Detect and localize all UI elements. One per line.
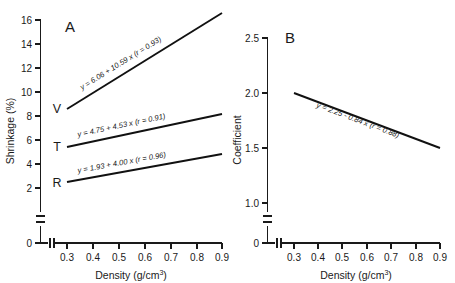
- x-ticklabel-0.8: 0.8: [409, 252, 423, 263]
- panel-b-plot: 2.5 2.0 1.5 1.0 0 Coefficient 0.3 0.4 0.…: [228, 0, 455, 283]
- x-ticklabel-0.4: 0.4: [86, 252, 100, 263]
- x-axis-title: Density (g/cm3): [320, 269, 392, 281]
- series-label-v: V: [53, 102, 62, 116]
- x-ticklabel-0.5: 0.5: [112, 252, 126, 263]
- x-ticklabel-0.3: 0.3: [287, 252, 301, 263]
- panel-a-plot: 16 14 12 10 8 6 4 2 0 Shrinkage (%): [0, 0, 230, 283]
- series-label-r: R: [52, 176, 61, 190]
- y-axis-title: Coefficient: [231, 115, 243, 165]
- x-ticklabel-0.6: 0.6: [360, 252, 374, 263]
- panel-letter-a: A: [65, 18, 75, 35]
- series-line-v: [67, 13, 222, 109]
- y-ticklabel-10: 10: [21, 87, 33, 98]
- panel-a: 16 14 12 10 8 6 4 2 0 Shrinkage (%): [0, 0, 230, 283]
- x-ticklabel-0.7: 0.7: [384, 252, 398, 263]
- x-ticklabel-0.8: 0.8: [190, 252, 204, 263]
- y-ticklabel-2.5: 2.5: [245, 33, 259, 44]
- y-ticklabel-8: 8: [26, 111, 32, 122]
- y-ticklabel-14: 14: [21, 39, 33, 50]
- x-axis-title-tail: ): [388, 269, 392, 281]
- x-ticklabel-0.5: 0.5: [335, 252, 349, 263]
- y-ticklabel-0: 0: [253, 238, 259, 249]
- x-axis-title-tail: ): [163, 269, 167, 281]
- panel-letter-b: B: [285, 29, 295, 46]
- x-axis-title-base: Density (g/cm: [95, 269, 159, 281]
- series-equation-coefficient: y = 2.25 - 0.84 x (r = 0.88): [314, 100, 401, 140]
- x-ticklabel-0.7: 0.7: [164, 252, 178, 263]
- y-ticklabel-6: 6: [26, 135, 32, 146]
- x-ticklabel-0.3: 0.3: [60, 252, 74, 263]
- x-axis-title: Density (g/cm3): [95, 269, 167, 281]
- y-ticklabel-16: 16: [21, 15, 33, 26]
- panel-b: 2.5 2.0 1.5 1.0 0 Coefficient 0.3 0.4 0.…: [228, 0, 455, 283]
- series-equation-v: y = 6.06 + 10.59 x (r = 0.93): [77, 34, 163, 92]
- y-ticklabel-0: 0: [26, 238, 32, 249]
- y-ticklabel-12: 12: [21, 63, 33, 74]
- y-ticklabel-4: 4: [26, 159, 32, 170]
- y-ticklabel-2.0: 2.0: [245, 88, 259, 99]
- series-label-t: T: [53, 140, 61, 154]
- x-ticklabel-0.9: 0.9: [433, 252, 447, 263]
- x-ticklabel-0.6: 0.6: [138, 252, 152, 263]
- x-ticklabel-0.4: 0.4: [311, 252, 325, 263]
- figure-container: 16 14 12 10 8 6 4 2 0 Shrinkage (%): [0, 0, 455, 283]
- y-ticklabel-2: 2: [26, 183, 32, 194]
- y-ticklabel-1.5: 1.5: [245, 143, 259, 154]
- y-ticklabel-1.0: 1.0: [245, 198, 259, 209]
- y-axis-title: Shrinkage (%): [4, 98, 16, 165]
- x-axis-title-base: Density (g/cm: [320, 269, 384, 281]
